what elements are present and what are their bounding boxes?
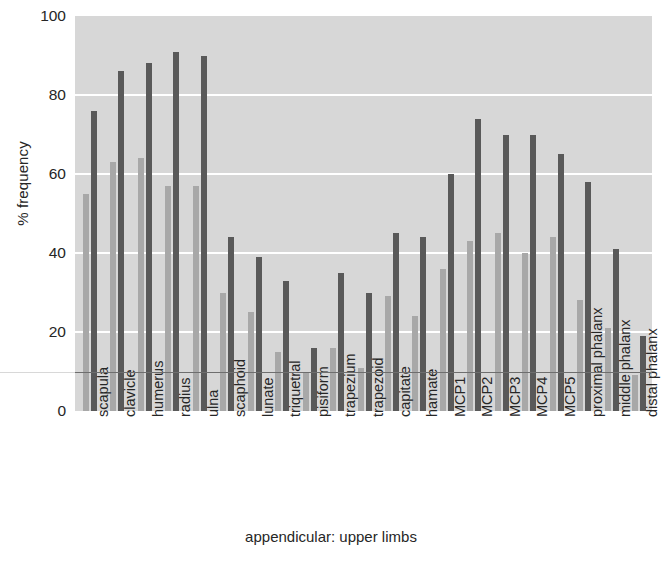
- bar-group: [220, 16, 234, 411]
- bar-light: [412, 316, 418, 411]
- x-tick-label: MCP4: [535, 377, 550, 417]
- bar-group: [165, 16, 179, 411]
- y-tick-label: 40: [26, 245, 66, 261]
- x-tick-label: scapula: [96, 367, 111, 417]
- bar-group: [303, 16, 317, 411]
- bar-group: [275, 16, 289, 411]
- bar-light: [193, 186, 199, 411]
- bar-light: [83, 194, 89, 411]
- x-tick-label: capitate: [398, 366, 413, 417]
- x-tick-label: pisiform: [316, 366, 331, 417]
- bar-light: [248, 312, 254, 411]
- bar-dark: [146, 63, 152, 411]
- bar-light: [165, 186, 171, 411]
- x-tick-label: MCP2: [480, 377, 495, 417]
- bar-light: [303, 372, 309, 412]
- bar-group: [495, 16, 509, 411]
- bar-group: [330, 16, 344, 411]
- bar-dark: [503, 135, 509, 412]
- bar-light: [632, 375, 638, 411]
- bars-layer: [75, 16, 652, 411]
- bar-light: [110, 162, 116, 411]
- y-tick-label: 60: [26, 166, 66, 182]
- bar-group: [385, 16, 399, 411]
- bar-group: [522, 16, 536, 411]
- y-tick-label: 100: [26, 8, 66, 24]
- x-tick-label: proximal phalanx: [590, 307, 605, 417]
- bar-dark: [118, 71, 124, 411]
- bar-light: [522, 253, 528, 411]
- bar-group: [83, 16, 97, 411]
- x-tick-label: trapezoid: [371, 357, 386, 417]
- reference-line-extension: [0, 372, 75, 373]
- x-tick-label: distal phalanx: [645, 328, 660, 417]
- bar-light: [220, 293, 226, 412]
- bar-light: [577, 300, 583, 411]
- bar-dark: [91, 111, 97, 411]
- bar-group: [358, 16, 372, 411]
- x-tick-label: triquetral: [288, 361, 303, 417]
- bar-dark: [530, 135, 536, 412]
- x-tick-label: hamate: [425, 369, 440, 417]
- bar-group: [193, 16, 207, 411]
- bar-group: [248, 16, 262, 411]
- bar-dark: [475, 119, 481, 411]
- reference-line-10-percent: [75, 372, 652, 373]
- bar-dark: [448, 174, 454, 411]
- y-tick-label: 20: [26, 324, 66, 340]
- y-axis-tick-labels: 100806040200: [18, 0, 66, 430]
- x-tick-label: trapezium: [343, 353, 358, 417]
- bar-light: [467, 241, 473, 411]
- bar-group: [110, 16, 124, 411]
- x-tick-label: radius: [178, 378, 193, 418]
- y-tick-label: 80: [26, 87, 66, 103]
- x-tick-label: clavicle: [123, 369, 138, 417]
- bar-light: [495, 233, 501, 411]
- x-tick-label: humerus: [151, 361, 166, 417]
- bar-light: [440, 269, 446, 411]
- bar-group: [412, 16, 426, 411]
- x-axis-tick-labels: scapulaclaviclehumerusradiusulnascaphoid…: [75, 411, 652, 521]
- bar-dark: [173, 52, 179, 411]
- bar-group: [440, 16, 454, 411]
- x-axis-title: appendicular: upper limbs: [0, 528, 662, 545]
- x-tick-label: ulna: [206, 390, 221, 417]
- bar-chart: % frequency 100806040200 scapulaclavicle…: [0, 0, 662, 574]
- x-tick-label: scaphoid: [233, 359, 248, 417]
- bar-group: [550, 16, 564, 411]
- bar-light: [138, 158, 144, 411]
- bar-light: [605, 328, 611, 411]
- x-tick-label: MCP5: [563, 377, 578, 417]
- x-tick-label: lunate: [261, 377, 276, 417]
- bar-light: [550, 237, 556, 411]
- bar-group: [138, 16, 152, 411]
- bar-group: [467, 16, 481, 411]
- x-tick-label: MCP1: [453, 377, 468, 417]
- y-tick-label: 0: [26, 403, 66, 419]
- x-tick-label: MCP3: [508, 377, 523, 417]
- x-tick-label: middle phalanx: [618, 319, 633, 417]
- bar-dark: [201, 56, 207, 412]
- bar-light: [358, 368, 364, 411]
- plot-area: [75, 16, 652, 411]
